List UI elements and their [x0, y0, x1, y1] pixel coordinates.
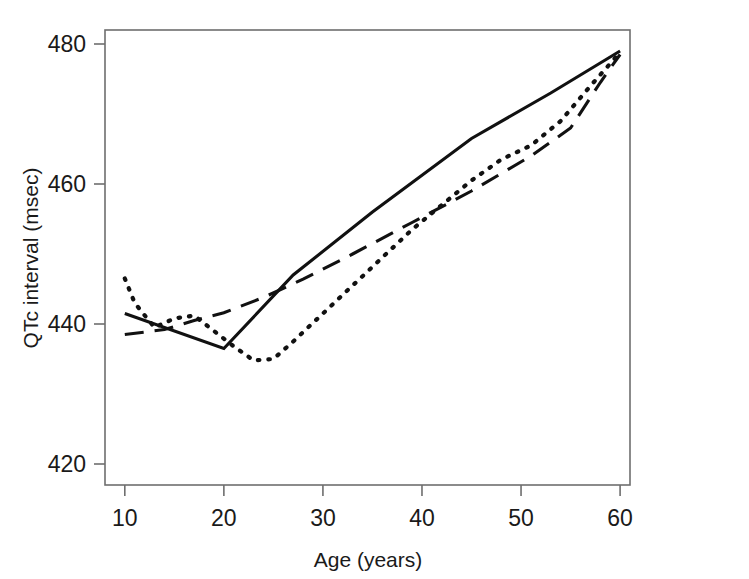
y-tick-label: 480	[48, 31, 86, 57]
partial-caption-above	[0, 0, 749, 14]
x-tick-label: 20	[211, 505, 237, 531]
chart-background	[0, 0, 749, 579]
y-tick-label: 460	[48, 171, 86, 197]
x-axis-title: Age (years)	[314, 548, 423, 571]
x-tick-label: 10	[112, 505, 138, 531]
y-tick-label: 420	[48, 451, 86, 477]
x-tick-label: 40	[409, 505, 435, 531]
figure-container: 420440460480 102030405060 QTc interval (…	[0, 0, 749, 579]
x-tick-label: 30	[310, 505, 336, 531]
qtc-vs-age-line-chart: 420440460480 102030405060 QTc interval (…	[0, 0, 749, 579]
x-tick-label: 50	[508, 505, 534, 531]
x-tick-label: 60	[607, 505, 633, 531]
y-axis-title: QTc interval (msec)	[19, 168, 42, 349]
y-tick-label: 440	[48, 311, 86, 337]
